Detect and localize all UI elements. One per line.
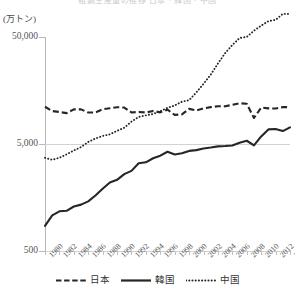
x-tick-mark [290, 251, 291, 255]
y-tick-mark [39, 144, 45, 145]
x-tick-label: 2012 [278, 242, 295, 260]
cutoff-title: 粗鋼生産量の推移 日本・韓国・中国 [0, 0, 295, 5]
series-line-japan [45, 103, 290, 118]
cutoff-title-strip: 粗鋼生産量の推移 日本・韓国・中国 [0, 0, 295, 9]
legend-label-china: 中国 [220, 276, 240, 286]
x-tick-label: 2000 [191, 242, 209, 260]
x-tick-mark [218, 251, 219, 255]
x-tick-mark [146, 251, 147, 255]
y-tick-label: 50,000 [0, 32, 38, 42]
gridline [45, 144, 290, 145]
chart-root: 粗鋼生産量の推移 日本・韓国・中国 (万トン) 50,0005,000500 1… [0, 0, 295, 295]
x-tick-mark [175, 251, 176, 255]
legend-label-korea: 韓国 [155, 276, 175, 286]
legend-item-japan[interactable]: 日本 [56, 276, 110, 286]
x-tick-label: 2010 [263, 242, 281, 260]
legend-item-china[interactable]: 中国 [186, 276, 240, 286]
series-line-korea [45, 127, 290, 226]
y-tick-label: 500 [0, 246, 38, 256]
y-tick-mark [39, 37, 45, 38]
x-tick-mark [45, 251, 46, 255]
chart-legend: 日本 韓国 中国 [0, 276, 295, 286]
legend-swatch-dotted [186, 276, 216, 285]
x-tick-mark [204, 251, 205, 255]
x-tick-mark [247, 251, 248, 255]
y-tick-label: 5,000 [0, 139, 38, 149]
x-tick-mark [117, 251, 118, 255]
x-tick-mark [103, 251, 104, 255]
legend-label-japan: 日本 [90, 276, 110, 286]
series-line-china [45, 14, 290, 160]
legend-swatch-dashed [56, 276, 86, 285]
x-tick-mark [276, 251, 277, 255]
x-tick-mark [189, 251, 190, 255]
legend-item-korea[interactable]: 韓国 [121, 276, 175, 286]
legend-swatch-solid [121, 276, 151, 285]
x-tick-mark [74, 251, 75, 255]
y-axis-unit-label: (万トン) [3, 12, 36, 25]
